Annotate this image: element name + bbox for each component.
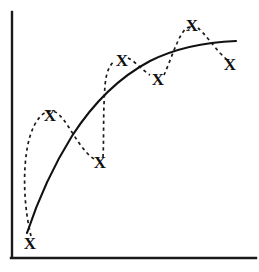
data-point-marker-1: X [24, 235, 36, 252]
data-point-marker-6: X [186, 17, 198, 34]
chart-figure: X X X X X X X Scatter of seven X markers… [0, 0, 259, 272]
data-point-marker-7: X [224, 56, 236, 73]
fitted-trend-curve [27, 41, 236, 233]
data-point-marker-2: X [44, 107, 56, 124]
data-point-marker-3: X [94, 154, 106, 171]
data-point-marker-4: X [116, 52, 128, 69]
plot-canvas [0, 0, 259, 272]
data-point-marker-5: X [152, 71, 164, 88]
